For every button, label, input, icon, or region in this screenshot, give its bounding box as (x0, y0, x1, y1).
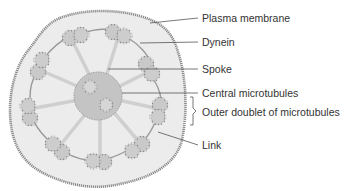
axoneme-diagram: Plasma membrane Dynein Spoke Central mic… (0, 0, 345, 191)
label-spoke: Spoke (202, 63, 232, 75)
doublet-8 (21, 99, 38, 126)
label-dynein: Dynein (202, 36, 235, 48)
doublet-4 (151, 98, 168, 125)
doublet-6 (86, 154, 112, 170)
label-link: Link (202, 139, 221, 151)
label-plasma-membrane: Plasma membrane (202, 12, 290, 24)
label-outer-doublet: Outer doublet of microtubules (202, 106, 340, 118)
central-pair (74, 72, 122, 120)
doublet-1 (63, 28, 89, 46)
label-central-microtubules: Central microtubules (202, 87, 298, 99)
